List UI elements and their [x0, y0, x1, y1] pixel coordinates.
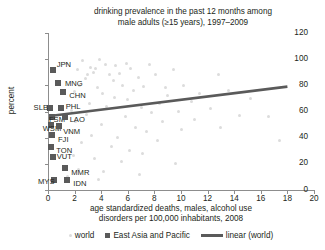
country-code-label: LAO [70, 115, 85, 124]
country-code-label: SLB [34, 103, 48, 112]
x-axis-title-line-1: age standardized deaths, males, alcohol … [90, 204, 252, 213]
x-tick-label: 8 [144, 194, 164, 203]
east-asia-pacific-data-point [50, 67, 56, 73]
country-code-label: MYS [38, 177, 54, 186]
country-code-label: MMR [71, 168, 89, 177]
east-asia-pacific-data-point [64, 177, 70, 183]
legend-square-marker [105, 233, 110, 238]
legend-label: world [75, 231, 95, 240]
country-code-label: VUT [57, 152, 72, 161]
east-asia-pacific-data-point [58, 105, 64, 111]
east-asia-pacific-data-point [62, 165, 68, 171]
x-tick-label: 6 [118, 194, 138, 203]
legend-entry: East Asia and Pacific [105, 231, 189, 240]
trend-line [48, 33, 314, 190]
east-asia-pacific-data-point [48, 144, 54, 150]
legend-label: linear (world) [226, 231, 273, 240]
chart-title-line-2: male adults (≥15 years), 1997–2009 [118, 18, 248, 27]
east-asia-pacific-data-point [50, 154, 56, 160]
x-axis-title: age standardized deaths, males, alcohol … [30, 204, 312, 225]
country-code-label: IDN [73, 179, 86, 188]
country-code-label: CHN [69, 91, 85, 100]
country-code-label: FJI [58, 135, 69, 144]
x-tick-label: 12 [198, 194, 218, 203]
x-tick-label: 14 [224, 194, 244, 203]
chart-title-line-1: drinking prevalence in the past 12 month… [94, 7, 272, 16]
chart-figure: drinking prevalence in the past 12 month… [0, 0, 325, 250]
x-tick-label: 4 [91, 194, 111, 203]
legend-line-marker [201, 234, 223, 236]
country-code-label: PHL [66, 102, 81, 111]
x-tick-label: 0 [38, 194, 58, 203]
east-asia-pacific-data-point [56, 123, 62, 129]
x-tick-label: 16 [251, 194, 271, 203]
country-code-label: MNG [65, 79, 83, 88]
chart-legend: worldEast Asia and Pacificlinear (world) [30, 231, 312, 240]
x-tick-label: 10 [171, 194, 191, 203]
y-axis-title: percent [7, 73, 16, 129]
plot-area: 020406080100120 02468101214161820 JPNMNG… [48, 33, 314, 190]
east-asia-pacific-data-point [49, 132, 55, 138]
legend-entry: linear (world) [201, 231, 273, 240]
east-asia-pacific-data-point [55, 80, 61, 86]
legend-circle-marker [69, 234, 72, 237]
x-tick-label: 18 [277, 194, 297, 203]
east-asia-pacific-data-point [62, 114, 68, 120]
chart-title: drinking prevalence in the past 12 month… [52, 7, 314, 28]
x-tick-label: 20 [304, 194, 324, 203]
country-code-label: JPN [57, 60, 71, 69]
legend-label: East Asia and Pacific [113, 231, 189, 240]
legend-entry: world [69, 231, 95, 240]
x-tick-label: 2 [65, 194, 85, 203]
x-axis-title-line-2: disorders per 100,000 inhabitants, 2008 [99, 214, 243, 223]
east-asia-pacific-data-point [60, 89, 66, 95]
